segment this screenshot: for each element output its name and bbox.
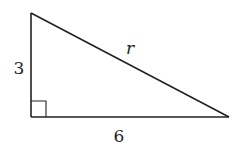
- triangle-diagram: 3 6 r: [0, 0, 238, 151]
- horizontal-leg-label: 6: [114, 126, 125, 146]
- right-angle-marker: [31, 101, 46, 117]
- hypotenuse-label: r: [126, 38, 135, 58]
- hypotenuse: [31, 13, 229, 117]
- vertical-leg-label: 3: [14, 58, 25, 78]
- triangle: [31, 13, 229, 117]
